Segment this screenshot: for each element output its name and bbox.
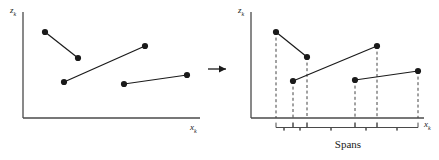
drop-line-group: [276, 32, 418, 118]
span-brace-group: [276, 123, 418, 131]
right-segment-1: [276, 32, 307, 57]
left-y-axis-subscript: k: [14, 11, 17, 17]
span-brace: [307, 123, 355, 131]
figure-canvas: zk xk zk x: [0, 0, 439, 160]
left-segment-2: [64, 46, 145, 82]
left-x-axis-subscript: k: [194, 128, 197, 134]
left-marker-group: [42, 29, 190, 87]
right-segment-group: [276, 32, 418, 81]
data-point: [184, 72, 190, 78]
right-y-axis-label: zk: [237, 5, 245, 17]
right-segment-3: [355, 71, 418, 80]
data-point: [61, 79, 67, 85]
left-panel: zk xk: [9, 5, 200, 134]
left-x-axis-label: xk: [189, 122, 197, 134]
data-point: [273, 29, 279, 35]
span-brace: [377, 123, 418, 131]
right-x-axis-subscript: k: [428, 125, 431, 131]
left-y-axis-label: zk: [9, 5, 17, 17]
data-point: [75, 55, 81, 61]
data-point: [290, 78, 296, 84]
left-segment-1: [45, 32, 78, 58]
left-segment-3: [124, 75, 187, 84]
spans-label: Spans: [335, 138, 361, 150]
data-point: [415, 68, 421, 74]
two-panel-spans-figure: zk xk zk x: [0, 0, 439, 160]
arrow-head-icon: [219, 66, 226, 73]
data-point: [352, 77, 358, 83]
right-y-axis-subscript: k: [242, 11, 245, 17]
right-panel: zk xk: [237, 5, 431, 150]
data-point: [142, 43, 148, 49]
data-point: [374, 43, 380, 49]
span-brace: [355, 123, 377, 131]
data-point: [42, 29, 48, 35]
data-point: [304, 54, 310, 60]
span-brace: [276, 123, 293, 131]
left-segment-group: [45, 32, 187, 84]
data-point: [121, 81, 127, 87]
transform-arrow: [208, 66, 226, 73]
right-marker-group: [273, 29, 421, 84]
span-brace: [293, 123, 307, 131]
right-x-axis-label: xk: [423, 119, 431, 131]
right-segment-2: [293, 46, 377, 81]
